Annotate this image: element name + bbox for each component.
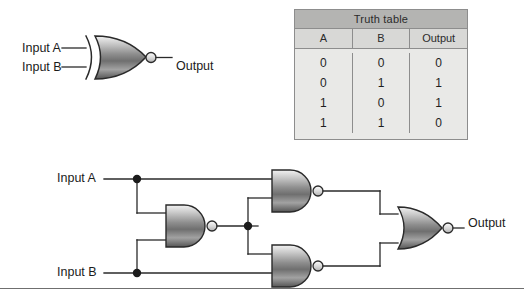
truth-table-title: Truth table [295,10,467,29]
xnor-input-a-label: Input A [22,41,61,55]
column-header-b: B [353,29,411,48]
truth-table-body: 0 0 0 0 1 1 1 0 1 1 1 0 [295,49,467,139]
junction-dot-input-b [133,269,141,277]
xnor-gate-body [95,36,146,79]
nand-gate-center-body [166,205,205,247]
cell-a: 0 [295,53,353,73]
cell-a: 1 [295,93,353,113]
nor-output-bubble [443,223,453,233]
truth-table: Truth table A B Output 0 0 0 0 1 1 1 0 1 [294,9,468,140]
cell-b: 0 [353,93,411,113]
cell-b: 1 [353,73,411,93]
cell-output: 0 [410,113,467,133]
cell-b: 0 [353,53,411,73]
table-row: 0 1 1 [295,73,467,93]
circuit-output-label: Output [468,216,506,230]
figure-canvas: Truth table A B Output 0 0 0 0 1 1 1 0 1 [0,0,524,300]
xnor-input-b-label: Input B [22,60,62,74]
nand-gate-bottom-right-body [272,245,311,287]
cell-output: 0 [410,53,467,73]
xnor-outer-arc [86,36,92,79]
table-row: 1 1 0 [295,113,467,133]
cell-b: 1 [353,113,411,133]
nand-top-right-bubble [313,186,323,196]
xnor-output-bubble [146,53,156,63]
nand-bottom-right-bubble [313,261,323,271]
xnor-symbol-group [62,36,172,79]
xnor-output-label: Output [176,59,214,73]
circuit-input-b-label: Input B [57,265,97,279]
table-row: 0 0 0 [295,53,467,73]
circuit-input-a-label: Input A [57,171,96,185]
junction-dot-input-a [133,175,141,183]
cell-output: 1 [410,73,467,93]
cell-output: 1 [410,93,467,113]
junction-dot-fanout [244,222,252,230]
cell-a: 0 [295,73,353,93]
nor-gate-output-body [398,207,442,249]
column-header-a: A [295,29,353,48]
circuit-group [104,170,464,287]
nand-center-bubble [207,221,217,231]
truth-table-header-row: A B Output [295,29,467,49]
nand-gate-top-right-body [272,170,311,212]
column-header-output: Output [410,29,467,48]
cell-a: 1 [295,113,353,133]
table-row: 1 0 1 [295,93,467,113]
